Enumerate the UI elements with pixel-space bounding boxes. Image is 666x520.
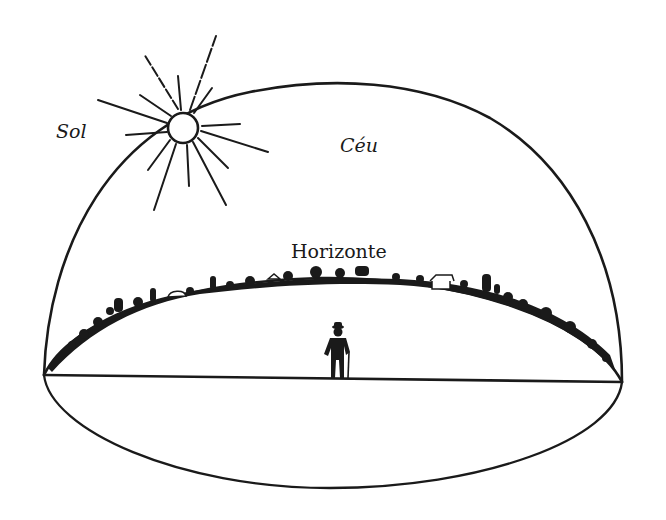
observer-figure [324,322,350,378]
horizon-label: Horizonte [291,240,387,262]
sky-label: Céu [340,134,378,156]
horizon-ellipse-lower [44,375,622,488]
celestial-dome [44,83,622,382]
sun-icon [98,36,268,210]
sun-label: Sol [56,120,87,142]
